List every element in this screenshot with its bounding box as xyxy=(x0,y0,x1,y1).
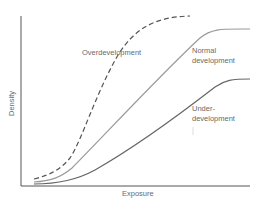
under-development-label-line2: development xyxy=(192,114,235,123)
normal-development-label-line1: Normal xyxy=(192,46,216,55)
overdevelopment-label: Overdevelopment xyxy=(82,48,141,57)
under-development-label-line1: Under- xyxy=(192,104,215,113)
x-axis-label: Exposure xyxy=(122,189,154,198)
characteristic-curve-chart xyxy=(0,0,262,210)
normal-development-curve xyxy=(34,29,250,182)
y-axis-label: Density xyxy=(7,89,16,119)
overdevelopment-curve xyxy=(34,16,190,179)
under-development-curve xyxy=(34,79,250,184)
normal-development-label-line2: development xyxy=(192,56,235,65)
